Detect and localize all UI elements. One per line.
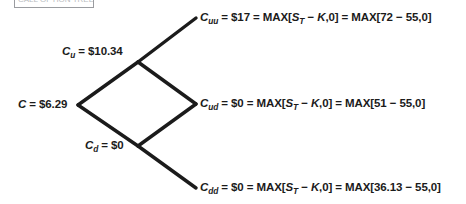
branch-root-up xyxy=(78,62,138,105)
terminal-spot-sub-uu: T xyxy=(299,16,304,26)
terminal-payoff-dd: Cdd = $0 = MAX[ST − K,0] = MAX[36.13 − 5… xyxy=(200,181,441,193)
terminal-numbers-dd: 36.13 − 55,0] xyxy=(374,181,441,193)
terminal-subscript-dd: dd xyxy=(208,186,218,196)
terminal-spot-sub-dd: T xyxy=(293,186,298,196)
terminal-value-uu: $17 xyxy=(231,11,250,23)
terminal-value-ud: $0 xyxy=(231,97,244,109)
terminal-eq1-ud: = xyxy=(218,97,231,109)
terminal-payoff-ud: Cud = $0 = MAX[ST − K,0] = MAX[51 − 55,0… xyxy=(200,97,425,109)
terminal-minus-ud: − xyxy=(298,97,311,109)
terminal-symbol-dd: C xyxy=(200,181,208,193)
node-value-up: $10.34 xyxy=(88,45,123,57)
terminal-eq1-uu: = xyxy=(218,11,231,23)
terminal-tail-dd: ,0] = MAX[ xyxy=(319,181,374,193)
node-subscript-down: d xyxy=(93,144,98,154)
terminal-minus-dd: − xyxy=(298,181,311,193)
node-symbol-down: C xyxy=(85,139,93,151)
terminal-spot-ud: S xyxy=(285,97,293,109)
terminal-numbers-uu: 72 − 55,0] xyxy=(380,11,431,23)
terminal-eq2-dd: = MAX[ xyxy=(244,181,286,193)
node-label-root: C = $6.29 xyxy=(18,98,67,110)
terminal-symbol-uu: C xyxy=(200,11,208,23)
node-symbol-up: C xyxy=(62,45,70,57)
terminal-spot-dd: S xyxy=(285,181,293,193)
terminal-eq2-uu: = MAX[ xyxy=(250,11,292,23)
node-equals-up: = xyxy=(75,45,88,57)
terminal-payoff-uu: Cuu = $17 = MAX[ST − K,0] = MAX[72 − 55,… xyxy=(200,11,431,23)
node-equals-root: = xyxy=(26,98,39,110)
terminal-subscript-ud: ud xyxy=(208,102,218,112)
terminal-tail-ud: ,0] = MAX[ xyxy=(319,97,374,109)
node-label-up: Cu = $10.34 xyxy=(62,45,123,57)
branch-up-updown xyxy=(138,62,196,104)
branch-down-downdown xyxy=(138,146,196,188)
terminal-minus-uu: − xyxy=(304,11,317,23)
node-subscript-up: u xyxy=(70,50,75,60)
terminal-strike-dd: K xyxy=(311,181,319,193)
terminal-symbol-ud: C xyxy=(200,97,208,109)
terminal-value-dd: $0 xyxy=(231,181,244,193)
node-value-root: $6.29 xyxy=(39,98,67,110)
terminal-spot-sub-ud: T xyxy=(293,102,298,112)
branch-lines xyxy=(78,18,196,188)
binomial-tree-figure: CALL OPTION TREE C = $6.29 Cu = $10.34 C… xyxy=(0,0,466,204)
node-symbol-root: C xyxy=(18,98,26,110)
terminal-numbers-ud: 51 − 55,0] xyxy=(374,97,425,109)
node-label-down: Cd = $0 xyxy=(85,139,124,151)
terminal-eq2-ud: = MAX[ xyxy=(244,97,286,109)
terminal-subscript-uu: uu xyxy=(208,16,218,26)
branch-up-upup xyxy=(138,18,196,62)
terminal-eq1-dd: = xyxy=(218,181,231,193)
node-equals-down: = xyxy=(98,139,111,151)
terminal-tail-uu: ,0] = MAX[ xyxy=(325,11,380,23)
node-value-down: $0 xyxy=(111,139,124,151)
terminal-strike-ud: K xyxy=(311,97,319,109)
branch-down-downup xyxy=(138,104,196,146)
